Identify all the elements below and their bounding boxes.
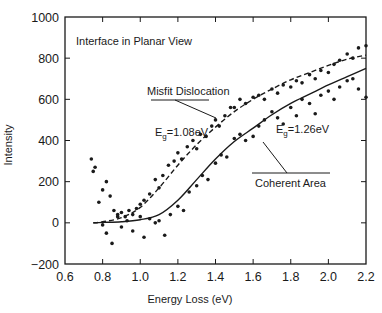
- data-point: [300, 81, 304, 85]
- data-point: [233, 137, 237, 141]
- data-point: [223, 114, 227, 118]
- data-point: [251, 95, 255, 99]
- data-point: [91, 170, 95, 174]
- data-point: [138, 203, 142, 207]
- data-point: [116, 215, 120, 219]
- x-tick-label: 2.0: [320, 270, 337, 284]
- x-tick-label: 0.6: [56, 270, 73, 284]
- data-point: [142, 198, 146, 202]
- data-point: [191, 139, 195, 143]
- data-point: [308, 73, 312, 77]
- data-point: [176, 151, 180, 155]
- data-point: [270, 87, 274, 91]
- data-point: [263, 98, 267, 102]
- data-point: [217, 124, 221, 128]
- data-point: [120, 225, 124, 229]
- misfit-arrow: [175, 100, 216, 118]
- x-tick-label: 1.6: [244, 270, 261, 284]
- data-point: [125, 219, 129, 223]
- data-point: [263, 118, 267, 122]
- data-point: [319, 93, 323, 97]
- x-tick-label: 1.4: [207, 270, 224, 284]
- data-point: [351, 77, 355, 81]
- data-point: [120, 211, 124, 215]
- data-point: [276, 116, 280, 120]
- data-point: [127, 209, 131, 213]
- data-point: [187, 190, 191, 194]
- data-point: [244, 102, 248, 106]
- chart-canvas: 0.60.81.01.21.41.61.82.02.2−200020040060…: [0, 0, 382, 313]
- data-point: [142, 235, 146, 239]
- y-tick-label: 1000: [31, 11, 59, 25]
- data-point: [276, 91, 280, 95]
- y-tick-label: 800: [38, 52, 59, 66]
- data-point: [161, 174, 165, 178]
- data-point: [295, 114, 299, 118]
- data-point: [123, 215, 127, 219]
- data-point: [110, 242, 114, 246]
- misfit-fit-curve: [93, 55, 366, 223]
- data-point: [195, 147, 199, 151]
- data-point: [338, 85, 342, 89]
- data-point: [154, 221, 158, 225]
- data-point: [251, 135, 255, 139]
- coherent-fit-curve: [93, 68, 366, 222]
- data-point: [364, 95, 368, 99]
- data-point: [244, 139, 248, 143]
- data-point: [148, 217, 152, 221]
- data-point: [357, 46, 361, 50]
- data-point: [345, 79, 349, 83]
- data-point: [313, 112, 317, 116]
- x-tick-label: 1.8: [282, 270, 299, 284]
- data-point: [157, 186, 161, 190]
- data-point: [332, 98, 336, 102]
- data-point: [214, 161, 218, 165]
- data-point: [90, 157, 94, 161]
- data-point: [289, 106, 293, 110]
- x-axis-label: Energy Loss (eV): [148, 293, 233, 305]
- x-tick-label: 2.2: [357, 270, 374, 284]
- data-point: [112, 209, 116, 213]
- data-point: [154, 178, 158, 182]
- data-point: [148, 192, 152, 196]
- y-tick-label: −200: [31, 258, 59, 272]
- data-point: [105, 231, 109, 235]
- data-point: [169, 213, 173, 217]
- data-point: [138, 215, 142, 219]
- data-point: [105, 180, 109, 184]
- y-tick-label: 200: [38, 175, 59, 189]
- data-point: [180, 157, 184, 161]
- data-point: [327, 89, 331, 93]
- data-point: [327, 71, 331, 75]
- data-point: [108, 194, 112, 198]
- inset-title: Interface in Planar View: [76, 35, 192, 47]
- data-point: [97, 200, 101, 204]
- coherent-arrow: [263, 142, 287, 173]
- data-point: [257, 93, 261, 97]
- data-point: [206, 178, 210, 182]
- data-point: [210, 124, 214, 128]
- data-point: [229, 106, 233, 110]
- data-point: [357, 87, 361, 91]
- data-point: [182, 209, 186, 213]
- eg-misfit-label: Eg=1.08eV: [155, 126, 209, 141]
- data-point: [185, 145, 189, 149]
- data-point: [135, 207, 139, 211]
- data-point: [157, 219, 161, 223]
- data-points: [90, 44, 368, 245]
- data-point: [214, 118, 218, 122]
- data-point: [289, 85, 293, 89]
- data-point: [319, 69, 323, 73]
- y-tick-label: 400: [38, 134, 59, 148]
- data-point: [238, 98, 242, 102]
- x-tick-label: 1.2: [169, 270, 186, 284]
- x-tick-label: 0.8: [94, 270, 111, 284]
- data-point: [195, 184, 199, 188]
- y-tick-label: 600: [38, 93, 59, 107]
- y-axis-label: Intensity: [2, 124, 14, 165]
- data-point: [219, 153, 223, 157]
- data-point: [238, 133, 242, 137]
- data-point: [332, 63, 336, 67]
- data-point: [131, 229, 135, 233]
- axes: 0.60.81.01.21.41.61.82.02.2−200020040060…: [31, 11, 375, 285]
